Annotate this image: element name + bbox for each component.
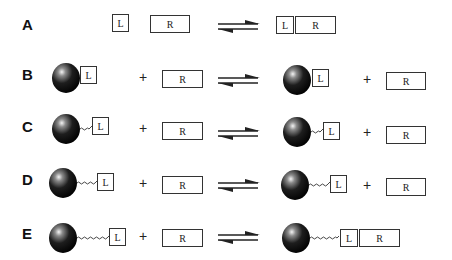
product-ligand-box: L (312, 69, 329, 87)
plus-sign: + (363, 71, 371, 87)
ligand-box: L (92, 117, 109, 135)
row-label-a: A (22, 16, 33, 33)
ligand-box: L (109, 228, 126, 246)
product-receptor-box: R (386, 72, 426, 90)
diagram-graphics (0, 0, 452, 260)
row-label-b: B (22, 66, 33, 83)
product-receptor-box: R (359, 229, 400, 247)
product-ligand-box: L (340, 229, 358, 247)
product-receptor-box: R (386, 126, 426, 144)
receptor-box: R (162, 122, 203, 140)
product-ligand-box: L (276, 16, 294, 34)
row-label-e: E (22, 225, 32, 242)
plus-sign: + (139, 120, 147, 136)
product-receptor-box: R (386, 178, 426, 196)
equilibrium-arrow-icon (218, 20, 260, 244)
sphere-particle-icon (49, 63, 311, 253)
plus-sign: + (363, 177, 371, 193)
row-label-c: C (22, 118, 33, 135)
product-ligand-box: L (330, 175, 347, 193)
ligand-box: L (97, 173, 114, 191)
row-label-d: D (22, 171, 33, 188)
plus-sign: + (139, 175, 147, 191)
plus-sign: + (139, 228, 147, 244)
product-ligand-box: L (323, 122, 340, 140)
plus-sign: + (363, 124, 371, 140)
ligand-box: L (112, 14, 129, 32)
receptor-box: R (162, 229, 203, 247)
receptor-box: R (162, 176, 203, 194)
ligand-box: L (80, 66, 97, 84)
receptor-box: R (162, 70, 203, 88)
plus-sign: + (139, 69, 147, 85)
product-receptor-box: R (295, 16, 336, 34)
receptor-box: R (150, 15, 190, 33)
